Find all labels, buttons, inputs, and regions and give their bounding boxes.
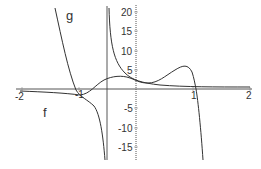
y-tick-label: -5	[124, 103, 133, 114]
curve-label-f: f	[43, 105, 47, 120]
curve-f	[20, 66, 203, 160]
y-tick-label: -15	[118, 142, 133, 153]
y-tick-label: -10	[118, 123, 133, 134]
x-tick-label: 2	[246, 90, 252, 101]
y-tick-label: 15	[121, 26, 133, 37]
x-tick-label: -2	[15, 91, 24, 102]
curve-label-g: g	[66, 8, 73, 23]
y-tick-label: 10	[121, 46, 133, 57]
y-tick-label: 5	[127, 65, 133, 76]
function-plot: -2 -1 1 2 20 15 10 5 -5 -10 -15 g f	[0, 0, 261, 169]
y-tick-label: 20	[121, 7, 133, 18]
